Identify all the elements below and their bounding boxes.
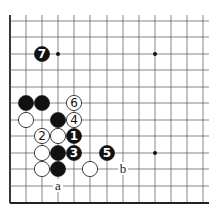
black-stone-5: 5 [99,145,114,160]
star-point-icon [153,52,157,56]
move-number: 6 [70,96,78,110]
white-stone [82,161,97,176]
white-stone-4: 4 [66,112,81,127]
move-number: 5 [103,146,111,160]
black-stone [18,95,33,110]
marker-a: a [55,178,61,193]
black-stone [50,112,65,127]
black-stone [50,161,65,176]
star-point-icon [153,151,157,155]
black-stone [34,95,49,110]
white-stone [18,112,33,127]
move-number: 7 [38,47,46,61]
go-board: 6421357 ab [0,0,223,215]
star-point-icon [56,52,60,56]
move-number: 4 [70,113,78,127]
move-number: 1 [70,129,78,143]
white-stone [34,161,49,176]
white-stone [34,145,49,160]
black-stone-1: 1 [66,128,81,143]
white-stone-2: 2 [34,128,49,143]
black-stone-7: 7 [34,46,49,61]
move-number: 3 [70,146,78,160]
white-stone-6: 6 [66,95,81,110]
stones-layer: 6421357 [18,46,114,176]
move-number: 2 [38,129,46,143]
white-stone [50,128,65,143]
black-stone-3: 3 [66,145,81,160]
marker-b: b [120,161,127,176]
black-stone [50,145,65,160]
